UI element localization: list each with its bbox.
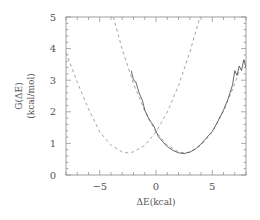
x-axis-label: ΔE(kcal): [137, 197, 176, 207]
y-tick-label: 0: [50, 170, 56, 181]
y-tick-label: 2: [50, 106, 56, 117]
axis-ticks: [66, 17, 246, 175]
x-tick-label: −5: [92, 181, 107, 192]
y-axis-label-line1: G(ΔE): [14, 82, 24, 109]
chart: −505012345 ΔE(kcal) G(ΔE) (kcal/mol): [0, 0, 260, 220]
y-axis-label-line2: (kcal/mol): [26, 73, 36, 119]
y-tick-label: 4: [50, 43, 56, 54]
plot-frame: [66, 17, 246, 175]
series-lines: [66, 17, 246, 154]
y-tick-label: 3: [50, 75, 56, 86]
series-left-parabola: [66, 17, 200, 153]
y-tick-label: 1: [50, 138, 56, 149]
x-tick-label: 5: [209, 181, 215, 192]
series-right-parabola: [113, 17, 239, 153]
y-tick-label: 5: [50, 12, 56, 23]
series-simulated: [131, 60, 246, 154]
plot-border: [66, 17, 246, 175]
tick-labels: −505012345: [50, 12, 216, 193]
x-tick-label: 0: [153, 181, 159, 192]
